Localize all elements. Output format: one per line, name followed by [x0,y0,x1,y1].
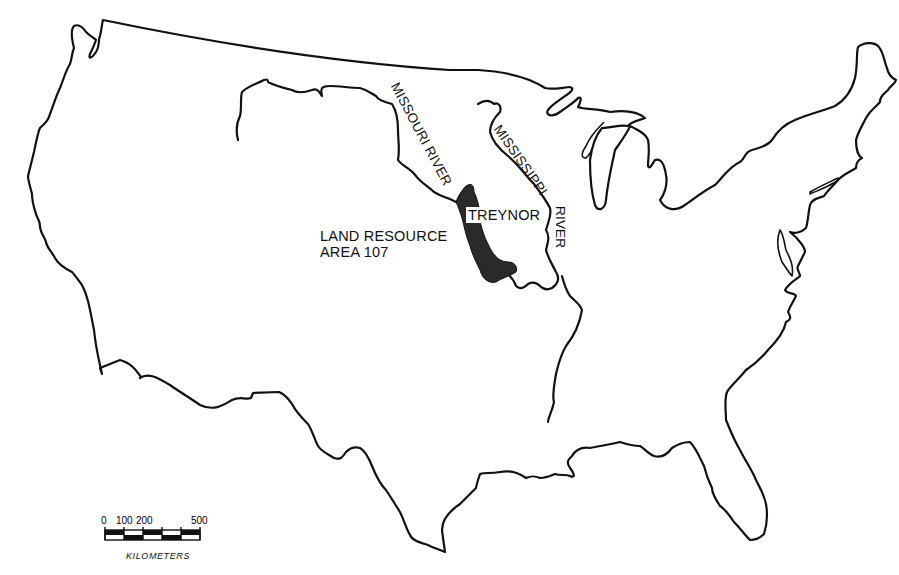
lower-mississippi-river [548,276,582,422]
lra-line-1: LAND RESOURCE [320,228,448,244]
scale-bar-labels: 0 100 200 500 [100,515,210,527]
scale-bar-units: KILOMETERS [126,551,190,561]
mississippi-river-label-2: RIVER [553,206,568,248]
us-outline-map [0,0,899,575]
scale-bar [105,527,200,540]
long-island [810,178,839,194]
scale-tick-500: 500 [191,515,208,526]
us-border-outline [28,20,896,552]
scale-tick-100: 100 [116,515,133,526]
scale-tick-0: 0 [101,515,107,526]
scale-tick-200: 200 [136,515,153,526]
land-resource-area-label: LAND RESOURCE AREA 107 [320,228,448,260]
treynor-text: TREYNOR [468,207,540,223]
chesapeake-bay [778,230,793,276]
river-text: RIVER [553,206,568,248]
land-resource-area-107 [456,184,517,282]
treynor-label: TREYNOR [466,207,542,223]
map-figure: MISSOURI RIVER MISSISSIPPI RIVER TREYNOR… [0,0,899,575]
lake-michigan-shore [582,122,604,158]
lra-line-2: AREA 107 [320,244,448,260]
